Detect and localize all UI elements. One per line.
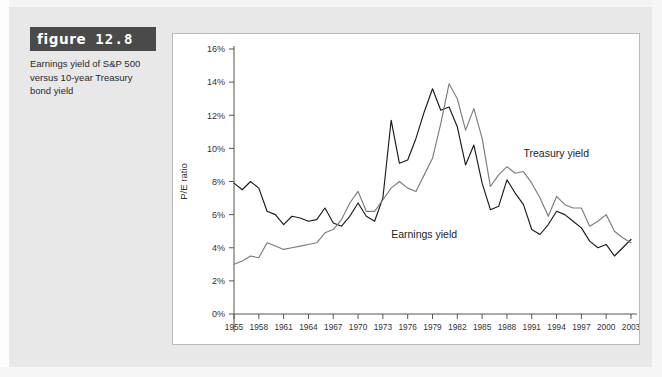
x-tick-label: 1955 — [225, 322, 244, 332]
x-tick-label: 1988 — [498, 322, 517, 332]
figure-caption-text: Earnings yield of S&P 500 versus 10-year… — [30, 57, 154, 98]
x-tick-label: 1970 — [349, 322, 368, 332]
line-chart: 0%2%4%6%8%10%12%14%16%P/E ratio 19551958… — [173, 34, 639, 344]
series-label: Earnings yield — [391, 228, 457, 240]
y-tick-label: 8% — [212, 177, 225, 187]
chart-panel: 0%2%4%6%8%10%12%14%16%P/E ratio 19551958… — [172, 33, 640, 345]
y-tick-label: 10% — [207, 144, 225, 154]
figure-caption-block: figure 12.8 Earnings yield of S&P 500 ve… — [30, 27, 156, 98]
page-bottom-margin — [0, 367, 662, 377]
y-tick-label: 6% — [212, 210, 225, 220]
y-tick-label: 12% — [207, 111, 225, 121]
y-tick-label: 0% — [212, 309, 225, 319]
figure-number-bar: figure 12.8 — [30, 27, 156, 51]
y-axis-title: P/E ratio — [178, 163, 189, 199]
x-tick-label: 1994 — [547, 322, 566, 332]
y-tick-label: 14% — [207, 77, 225, 87]
x-tick-label: 2000 — [597, 322, 616, 332]
x-tick-label: 1964 — [299, 322, 318, 332]
page-left-margin — [0, 0, 9, 377]
x-tick-label: 1979 — [423, 322, 442, 332]
x-tick-label: 1967 — [324, 322, 343, 332]
x-tick-label: 1976 — [398, 322, 417, 332]
figure-label-word: figure — [37, 31, 86, 47]
series-annotations: Earnings yieldTreasury yield — [391, 147, 589, 240]
y-tick-label: 4% — [212, 243, 225, 253]
figure-number: 12.8 — [95, 31, 134, 47]
x-tick-label: 2003 — [622, 322, 639, 332]
x-tick-label: 1982 — [448, 322, 467, 332]
x-tick-label: 1973 — [374, 322, 393, 332]
page-right-margin — [652, 0, 662, 377]
y-axis: 0%2%4%6%8%10%12%14%16%P/E ratio — [178, 44, 234, 332]
y-tick-label: 2% — [212, 276, 225, 286]
page-top-margin — [0, 0, 662, 7]
x-tick-label: 1985 — [473, 322, 492, 332]
x-tick-label: 1991 — [523, 322, 542, 332]
x-tick-label: 1958 — [250, 322, 269, 332]
x-axis: 1955195819611964196719701973197619791982… — [225, 314, 639, 332]
x-tick-label: 1961 — [274, 322, 293, 332]
series-label: Treasury yield — [523, 147, 589, 159]
y-tick-label: 16% — [207, 44, 225, 54]
x-tick-label: 1997 — [572, 322, 591, 332]
